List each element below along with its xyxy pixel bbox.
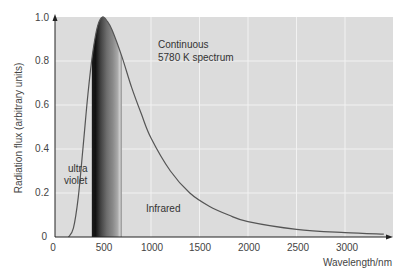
annotation-violet: violet [64,175,88,186]
x-tick-2500: 2500 [287,242,310,253]
y-tick-0.8: 0.8 [35,55,49,66]
y-tick-0.2: 0.2 [35,187,49,198]
annotation-infrared: Infrared [146,203,180,214]
x-tick-2000: 2000 [238,242,261,253]
y-tick-1.0: 1.0 [35,12,49,23]
x-tick-500: 500 [96,242,113,253]
y-axis-label: Radiation flux (arbitrary units) [13,63,24,194]
x-tick-1500: 1500 [189,242,212,253]
x-tick-1000: 1000 [141,242,164,253]
x-axis-label: Wavelength/nm [323,257,392,268]
annotation-ultra: ultra [68,163,88,174]
y-tick-0.6: 0.6 [35,99,49,110]
spectrum-chart: 0 0.2 0.4 0.6 0.8 1.0 0 500 1000 1500 20… [0,0,407,273]
y-tick-0.4: 0.4 [35,143,49,154]
y-tick-0: 0 [41,231,47,242]
x-tick-3000: 3000 [336,242,359,253]
visible-spectrum-band [92,17,122,237]
annotation-spectrum: 5780 K spectrum [158,52,234,63]
annotation-continuous: Continuous [158,39,209,50]
x-tick-0: 0 [50,242,56,253]
